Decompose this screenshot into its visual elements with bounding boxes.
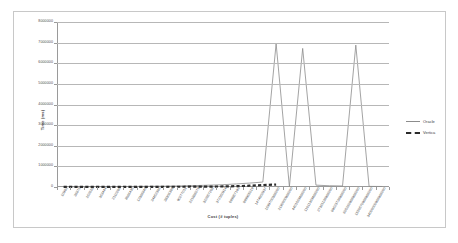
plot-area: 8000000700000060000005000000400000030000… — [57, 22, 389, 187]
x-tick-mark — [349, 187, 350, 190]
x-tick-label: 221886079 — [189, 187, 201, 204]
legend-label-vertica: Vertica — [423, 130, 435, 135]
x-tick-label: 38306389 — [164, 187, 175, 203]
x-tick-label: 699857192 — [229, 187, 241, 204]
y-tick-label: 5000000 — [38, 82, 53, 86]
x-tick-mark — [283, 187, 284, 190]
x-tick-mark — [376, 187, 377, 190]
y-tick-label: 6000000 — [38, 61, 53, 65]
x-tick-label: 262628 — [86, 187, 95, 199]
y-tick-label: 2000000 — [38, 144, 53, 148]
y-tick-mark — [54, 146, 57, 147]
x-tick-mark — [150, 187, 151, 190]
x-tick-mark — [216, 187, 217, 190]
x-tick-label: 12386846 — [137, 187, 148, 203]
gridline — [57, 146, 389, 147]
legend-label-oracle: Oracle — [423, 119, 435, 124]
x-tick-mark — [177, 187, 178, 190]
x-tick-mark — [269, 187, 270, 190]
legend-item-vertica: Vertica — [406, 127, 458, 138]
x-tick-mark — [163, 187, 164, 190]
y-tick-label: 3000000 — [38, 123, 53, 127]
x-tick-label: 36876 — [74, 187, 82, 197]
series-line-oracle — [64, 44, 383, 187]
x-tick-mark — [70, 187, 71, 190]
x-tick-label: 10982 — [61, 187, 69, 197]
y-tick-label: 7000000 — [38, 41, 53, 45]
y-tick-mark — [54, 43, 57, 44]
x-tick-mark — [362, 187, 363, 190]
x-tick-mark — [97, 187, 98, 190]
y-tick-mark — [54, 84, 57, 85]
x-tick-label: 899965019 — [243, 187, 255, 204]
y-tick-mark — [54, 105, 57, 106]
x-tick-mark — [336, 187, 337, 190]
gridline — [57, 63, 389, 64]
y-tick-label: 1000000 — [38, 165, 53, 169]
x-tick-mark — [123, 187, 124, 190]
gridline — [57, 84, 389, 85]
x-tick-mark — [230, 187, 231, 190]
chart-root: Time (ms) 800000070000006000000500000040… — [0, 0, 458, 243]
plot-inner: 8000000700000060000005000000400000030000… — [57, 22, 389, 187]
x-tick-mark — [110, 187, 111, 190]
y-tick-mark — [54, 22, 57, 23]
legend-item-oracle: Oracle — [406, 116, 458, 127]
y-tick-mark — [54, 166, 57, 167]
x-tick-mark — [84, 187, 85, 190]
x-tick-mark — [190, 187, 191, 190]
gridline — [57, 105, 389, 106]
gridline — [57, 166, 389, 167]
y-tick-label: 8000000 — [38, 20, 53, 24]
legend-swatch-dashed-icon — [406, 132, 420, 134]
x-tick-label: 24452386 — [151, 187, 162, 203]
x-tick-label: 322657208 — [203, 187, 215, 204]
gridline — [57, 43, 389, 44]
x-tick-mark — [137, 187, 138, 190]
x-tick-label: 8086435 — [125, 187, 135, 201]
x-tick-mark — [296, 187, 297, 190]
chart-legend: Oracle Vertica — [406, 116, 458, 138]
y-tick-label: 0 — [51, 185, 53, 189]
x-tick-mark — [256, 187, 257, 190]
x-tick-label: 363444 — [99, 187, 108, 199]
x-tick-mark — [203, 187, 204, 190]
x-tick-label: 90277011 — [177, 187, 188, 202]
legend-swatch-solid-icon — [406, 121, 420, 122]
y-tick-mark — [54, 63, 57, 64]
y-tick-label: 4000000 — [38, 103, 53, 107]
x-tick-label: 2110286 — [112, 187, 122, 201]
x-tick-mark — [389, 187, 390, 190]
chart-frame: Time (ms) 800000070000006000000500000040… — [13, 11, 446, 228]
x-tick-mark — [323, 187, 324, 190]
x-tick-mark — [243, 187, 244, 190]
gridline — [57, 125, 389, 126]
y-tick-mark — [54, 125, 57, 126]
gridline — [57, 22, 389, 23]
x-tick-mark — [309, 187, 310, 190]
x-tick-label: 372150914 — [216, 187, 228, 204]
x-tick-mark — [57, 187, 58, 190]
x-axis-title: Cost (# tuples) — [57, 214, 389, 219]
